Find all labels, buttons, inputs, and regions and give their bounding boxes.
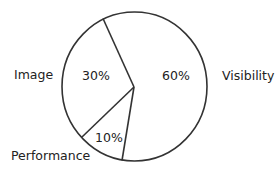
slice-label-image: Image bbox=[14, 67, 53, 82]
slice-value-image: 30% bbox=[82, 68, 110, 83]
slice-value-visibility: 60% bbox=[162, 68, 190, 83]
pie-chart: 30% 60% 10% Image Visibility Performance bbox=[0, 0, 280, 171]
slice-label-visibility: Visibility bbox=[222, 68, 275, 83]
slice-value-performance: 10% bbox=[95, 130, 123, 145]
slice-label-performance: Performance bbox=[11, 148, 91, 163]
